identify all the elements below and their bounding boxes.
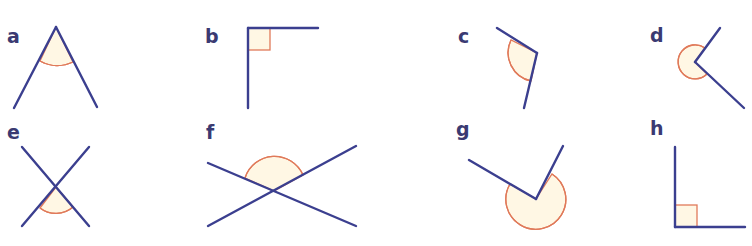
angle-d-label: d xyxy=(650,24,664,46)
angle-h-right-angle-marker xyxy=(675,205,697,227)
angle-a-ray-right xyxy=(56,27,97,107)
angle-g-ray-left xyxy=(469,160,536,199)
angle-e: e xyxy=(7,121,89,226)
angle-e-label: e xyxy=(7,121,20,143)
angle-b: b xyxy=(205,25,318,108)
angle-b-right-angle-marker xyxy=(248,28,270,50)
angle-c: c xyxy=(458,25,537,108)
angle-a-label: a xyxy=(7,25,20,47)
angle-g-label: g xyxy=(456,118,470,140)
angle-c-label: c xyxy=(458,25,469,47)
angle-a-ray-left xyxy=(14,27,56,108)
angle-f: f xyxy=(206,121,356,226)
angle-d-ray-lower xyxy=(695,62,744,108)
angle-d: d xyxy=(650,24,744,108)
angle-g: g xyxy=(456,118,566,229)
angle-h-label: h xyxy=(650,117,664,139)
angle-f-label: f xyxy=(206,121,215,143)
angle-b-label: b xyxy=(205,25,219,47)
angles-diagram: a b c d e f xyxy=(0,0,752,246)
angle-h: h xyxy=(650,117,745,227)
angle-a: a xyxy=(7,25,97,108)
angle-f-marker xyxy=(245,156,303,191)
